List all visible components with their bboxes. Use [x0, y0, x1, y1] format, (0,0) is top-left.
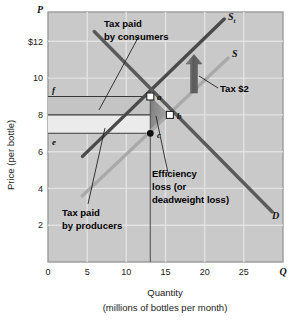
y-axis-symbol: P: [37, 4, 44, 15]
annotation-tax-paid-by-producers-line1: Tax paid: [62, 207, 100, 218]
x-axis-subtitle: (millions of bottles per month): [103, 302, 228, 313]
annotation-tax-paid-by-consumers-line1: Tax paid: [104, 18, 142, 29]
annotation-efficiency-loss-line1: Efficiency: [152, 168, 198, 179]
curve-label-s: S: [232, 48, 238, 59]
data-point-a-label: a: [157, 92, 162, 102]
data-point-c-marker: [147, 130, 154, 137]
axis-point-label-e: e: [52, 137, 56, 147]
supply-demand-tax-figure: a b c f e St S D Tax paid by consumers T…: [0, 0, 299, 325]
data-point-c-label: c: [157, 130, 161, 140]
annotation-tax-amount: Tax $2: [220, 83, 249, 94]
annotation-tax-paid-by-producers-line2: by producers: [62, 220, 122, 231]
region-tax-paid-by-producers: [48, 115, 150, 133]
x-tick-label-5: 5: [85, 267, 90, 277]
x-axis-symbol: Q: [279, 266, 286, 277]
annotation-tax-paid-by-consumers-line2: by consumers: [104, 31, 168, 42]
data-point-b-marker: [166, 111, 173, 118]
chart-svg: a b c f e St S D Tax paid by consumers T…: [0, 0, 299, 325]
data-point-a-marker: [147, 93, 154, 100]
y-tick-label-4: 4: [38, 184, 43, 194]
annotation-efficiency-loss-line3: deadweight loss): [152, 194, 229, 205]
x-tick-label-0: 0: [45, 267, 50, 277]
y-tick-label-2: 2: [38, 220, 43, 230]
curve-label-d: D: [271, 210, 279, 221]
x-tick-label-10: 10: [121, 267, 131, 277]
y-axis-title: Price (per bottle): [5, 120, 16, 190]
annotation-efficiency-loss-line2: loss (or: [152, 181, 187, 192]
x-tick-label-15: 15: [160, 267, 170, 277]
y-tick-label-12: $12: [28, 37, 43, 47]
data-point-b-label: b: [177, 111, 182, 121]
x-axis-title: Quantity: [147, 287, 183, 298]
x-tick-label-20: 20: [200, 267, 210, 277]
y-tick-label-6: 6: [38, 147, 43, 157]
y-tick-label-8: 8: [38, 110, 43, 120]
x-tick-label-25: 25: [239, 267, 249, 277]
y-tick-label-10: 10: [33, 73, 43, 83]
